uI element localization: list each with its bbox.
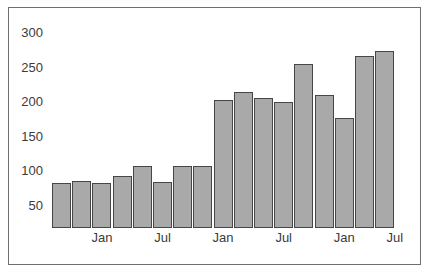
chart-figure: 50100150200250300 JanJulJanJulJanJul	[0, 0, 429, 273]
plot-area: 50100150200250300 JanJulJanJulJanJul	[0, 0, 429, 273]
x-axis-tick-label: Jul	[264, 231, 304, 244]
x-axis-tick-label: Jan	[324, 231, 364, 244]
x-axis-tick-label: Jan	[82, 231, 122, 244]
x-axis-tick-label: Jul	[375, 231, 415, 244]
x-axis-tick-label: Jan	[203, 231, 243, 244]
x-axis: JanJulJanJulJanJul	[0, 0, 429, 273]
x-axis-tick-label: Jul	[143, 231, 183, 244]
